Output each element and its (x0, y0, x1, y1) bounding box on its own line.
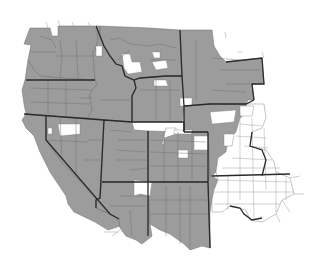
hole-oregon (58, 124, 80, 136)
hole-nebraska-2 (240, 106, 254, 116)
hole-oregon-coast (48, 128, 52, 134)
map-canvas (0, 0, 314, 268)
hole-idaho-north (96, 46, 102, 56)
hole-colorado-2 (194, 136, 208, 150)
hole-colorado-south (178, 150, 188, 158)
hole-nebraska (210, 110, 236, 124)
hole-wyoming (180, 98, 192, 106)
state-dakotas (180, 30, 264, 106)
state-new-mexico (148, 182, 210, 250)
hole-kansas (224, 134, 234, 146)
